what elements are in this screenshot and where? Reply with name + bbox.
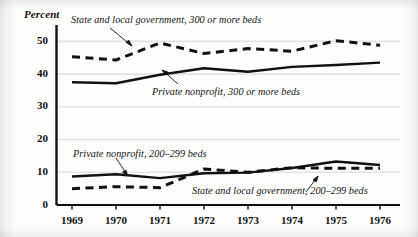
y-tick-label-20: 20 bbox=[26, 132, 48, 144]
x-tick-label-1974: 1974 bbox=[272, 214, 312, 226]
y-tick-label-30: 30 bbox=[26, 99, 48, 111]
x-tick-label-1972: 1972 bbox=[184, 214, 224, 226]
series-annotation-private-200: Private nonprofit, 200–299 beds bbox=[73, 148, 207, 159]
x-tick-label-1973: 1973 bbox=[228, 214, 268, 226]
series-annotation-state-200: State and local government, 200–299 beds bbox=[192, 185, 368, 196]
series-line-1 bbox=[72, 63, 380, 84]
series-annotation-state-300: State and local government, 300 or more … bbox=[71, 14, 261, 25]
x-tick-label-1971: 1971 bbox=[140, 214, 180, 226]
series-annotation-private-300: Private nonprofit, 300 or more beds bbox=[152, 86, 300, 97]
line-chart-plot bbox=[0, 0, 418, 237]
x-tick-label-1976: 1976 bbox=[360, 214, 400, 226]
data-series-group bbox=[72, 41, 380, 189]
x-tick-label-1969: 1969 bbox=[52, 214, 92, 226]
y-tick-label-10: 10 bbox=[26, 165, 48, 177]
y-axis-title: Percent bbox=[24, 8, 60, 20]
y-tick-label-50: 50 bbox=[26, 34, 48, 46]
y-tick-label-0: 0 bbox=[26, 198, 48, 210]
series-line-0 bbox=[72, 41, 380, 60]
series-line-2 bbox=[72, 161, 380, 178]
x-tick-label-1970: 1970 bbox=[96, 214, 136, 226]
y-tick-label-40: 40 bbox=[26, 67, 48, 79]
x-tick-label-1975: 1975 bbox=[316, 214, 356, 226]
chart-figure: Percent 0 10 20 30 40 50 1969 1970 1971 … bbox=[0, 0, 418, 237]
